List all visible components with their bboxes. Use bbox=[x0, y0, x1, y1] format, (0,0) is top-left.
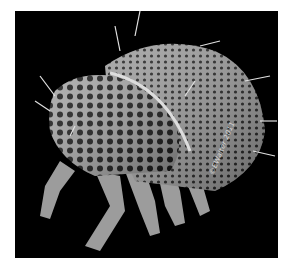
sem-photo: ©EWalter 2011 bbox=[15, 11, 278, 258]
mite-illustration bbox=[15, 11, 278, 258]
